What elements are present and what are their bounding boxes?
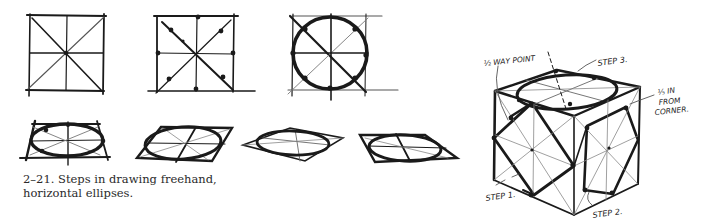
ellipse-step-4 <box>360 133 457 163</box>
step-square-2 <box>148 14 255 93</box>
caption-line-2: horizontal ellipses. <box>23 186 283 200</box>
step-square-1 <box>26 14 106 96</box>
cube-drawing <box>492 52 654 215</box>
figure-caption: 2–21. Steps in drawing freehand, horizon… <box>23 172 283 200</box>
ellipse-step-1 <box>20 121 110 165</box>
annotation-step1: STEP 1. <box>485 190 516 203</box>
ellipse-step-2 <box>137 124 232 162</box>
annotation-step2: STEP 2. <box>592 207 623 220</box>
annotation-half-way-point: ½ WAY POINT <box>483 53 537 67</box>
ellipse-step-3 <box>243 128 343 161</box>
step-square-3 <box>288 14 398 100</box>
annotation-fifth-in: ⅕ IN <box>657 86 676 97</box>
caption-line-1: 2–21. Steps in drawing freehand, <box>23 172 283 186</box>
annotation-step3: STEP 3. <box>597 55 628 68</box>
